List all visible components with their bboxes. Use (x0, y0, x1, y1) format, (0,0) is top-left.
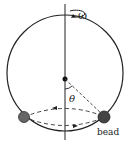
hoop-diagram: ω θ bead (0, 0, 137, 148)
bead-left (19, 112, 30, 123)
theta-label: θ (69, 93, 75, 104)
omega-label: ω (78, 9, 87, 22)
diagram-canvas: ω θ bead (0, 0, 137, 148)
bead-right (98, 111, 110, 123)
theta-arc (65, 86, 72, 89)
bead-label: bead (97, 127, 119, 137)
